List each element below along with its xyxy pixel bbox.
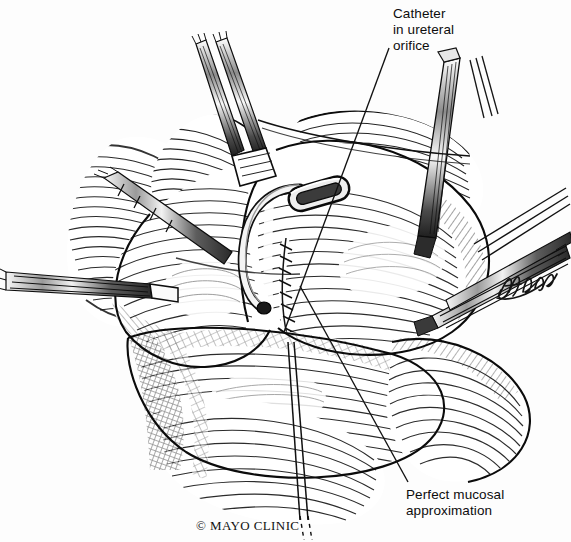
- surgical-illustration: [0, 0, 571, 542]
- label-catheter-in-ureteral-orifice: Catheter in ureteral orifice: [393, 6, 454, 54]
- label-perfect-mucosal-approximation: Perfect mucosal approximation: [406, 487, 504, 519]
- illustration-page: Catheter in ureteral orifice Perfect muc…: [0, 0, 571, 542]
- copyright-notice: © MAYO CLINIC: [196, 518, 299, 534]
